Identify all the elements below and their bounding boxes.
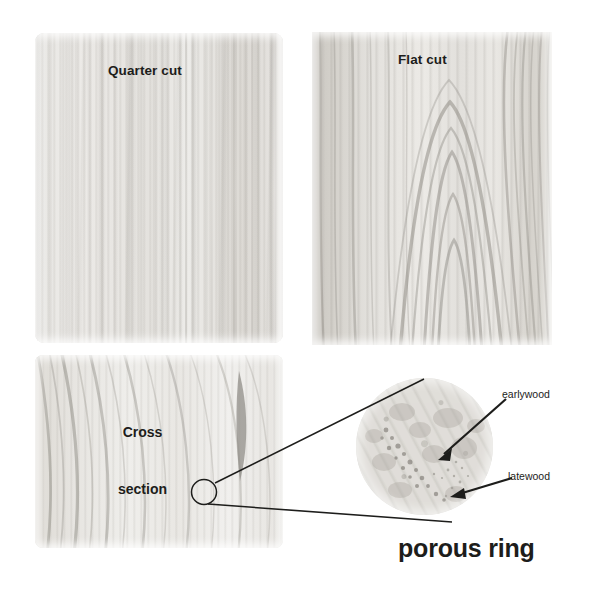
annotation-label-latewood: latewood [508,470,550,482]
locator-circle [192,480,217,505]
earlywood-arrow [438,399,506,461]
magnifier-leader-upper [215,379,424,483]
figure-canvas: Quarter cut [0,0,593,596]
magnifier-leader-lower [208,504,452,522]
inset-caption-porous-ring: porous ring [398,534,535,563]
annotation-overlay [0,0,593,596]
latewood-arrow [450,478,512,499]
annotation-label-earlywood: earlywood [502,388,550,400]
